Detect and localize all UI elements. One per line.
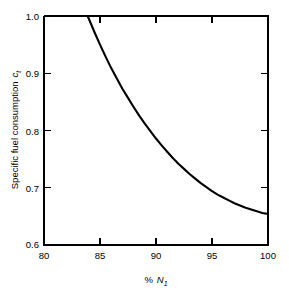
x-tick-labels: 80 85 90 95 100 [39,250,276,261]
plot-frame [44,16,268,245]
y-axis-ticks [44,16,268,245]
y-tick-labels: 1.0 0.9 0.8 0.7 0.6 [26,11,39,250]
y-tick-label-1-0: 1.0 [26,11,39,22]
y-axis-title: Specific fuel consumptionct [9,70,22,189]
y-axis-title-subscript: t [15,70,22,73]
y-tick-label-0-6: 0.6 [26,239,39,250]
y-axis-title-text: Specific fuel consumption [9,81,20,189]
y-tick-label-0-7: 0.7 [26,183,39,194]
x-tick-label-90: 90 [151,250,162,261]
figure-container: 80 85 90 95 100 1.0 0.9 0.8 0.7 0.6 %N1 … [0,0,289,293]
fuel-consumption-chart: 80 85 90 95 100 1.0 0.9 0.8 0.7 0.6 %N1 … [0,0,289,293]
x-axis-title-subscript: 1 [164,280,168,287]
data-curve-specific-fuel-consumption [88,16,268,214]
x-axis-title: %N1 [144,274,167,287]
x-tick-label-85: 85 [95,250,106,261]
x-axis-title-percent: % [144,274,153,285]
x-tick-label-100: 100 [260,250,276,261]
x-tick-label-80: 80 [39,250,50,261]
x-tick-label-95: 95 [207,250,218,261]
x-axis-ticks [44,16,268,245]
y-tick-label-0-9: 0.9 [26,68,39,79]
y-tick-label-0-8: 0.8 [26,126,39,137]
